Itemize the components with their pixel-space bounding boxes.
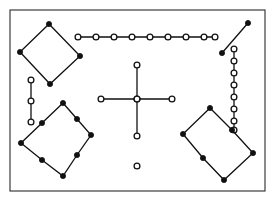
bottom-left-rotated-rectangle-node-6 xyxy=(18,140,23,145)
bottom-right-rotated-rectangle-node-3 xyxy=(221,177,226,182)
right-vertical-chain-node-1 xyxy=(231,58,237,64)
top-left-diamond-node-1 xyxy=(77,53,82,58)
bottom-left-rotated-rectangle-node-7 xyxy=(39,120,44,125)
bottom-left-rotated-rectangle-node-5 xyxy=(39,157,44,162)
bottom-left-rotated-rectangle-node-4 xyxy=(60,173,65,178)
center-cross-vertical-node-2 xyxy=(134,133,140,139)
bottom-right-rotated-rectangle-node-4 xyxy=(200,155,205,160)
top-horizontal-chain-node-7 xyxy=(201,34,207,40)
top-right-diagonal-segment-node-1 xyxy=(245,20,250,25)
left-short-vertical-chain-node-2 xyxy=(28,119,34,125)
left-short-vertical-chain-node-1 xyxy=(28,98,34,104)
bottom-left-rotated-rectangle-node-1 xyxy=(74,116,79,121)
lone-circle-below-cross-node-0 xyxy=(134,163,140,169)
bottom-left-rotated-rectangle-node-3 xyxy=(74,152,79,157)
top-horizontal-chain-node-4 xyxy=(147,34,153,40)
center-cross-vertical-node-0 xyxy=(134,62,140,68)
right-vertical-chain-node-3 xyxy=(231,82,237,88)
top-left-diamond-node-0 xyxy=(46,21,51,26)
bottom-left-rotated-rectangle-node-2 xyxy=(88,132,93,137)
bottom-right-rotated-rectangle-node-1 xyxy=(229,127,234,132)
top-horizontal-chain-node-3 xyxy=(129,34,135,40)
bottom-left-rotated-rectangle-node-0 xyxy=(60,100,65,105)
top-left-diamond-node-3 xyxy=(17,49,22,54)
bottom-right-rotated-rectangle-node-0 xyxy=(207,105,212,110)
top-right-diagonal-segment-node-0 xyxy=(219,50,224,55)
top-horizontal-chain-node-0 xyxy=(75,34,81,40)
geometric-diagram-canvas xyxy=(0,0,275,205)
right-vertical-chain-node-5 xyxy=(231,106,237,112)
right-vertical-chain-node-0 xyxy=(231,46,237,52)
center-cross-horizontal-node-1 xyxy=(134,96,140,102)
right-vertical-chain-node-2 xyxy=(231,70,237,76)
top-left-diamond-node-2 xyxy=(47,81,52,86)
top-horizontal-chain-node-2 xyxy=(111,34,117,40)
center-cross-horizontal-node-0 xyxy=(98,96,104,102)
top-horizontal-chain-node-6 xyxy=(183,34,189,40)
bottom-right-rotated-rectangle-node-5 xyxy=(180,131,185,136)
figure-container xyxy=(0,0,275,205)
lone-circle-below-cross xyxy=(134,163,140,169)
center-cross-horizontal-node-2 xyxy=(169,96,175,102)
top-horizontal-chain-node-8 xyxy=(212,34,218,40)
right-vertical-chain-node-6 xyxy=(231,118,237,124)
left-short-vertical-chain-node-0 xyxy=(28,77,34,83)
bottom-right-rotated-rectangle-node-2 xyxy=(250,150,255,155)
top-horizontal-chain-node-1 xyxy=(93,34,99,40)
top-horizontal-chain-node-5 xyxy=(165,34,171,40)
right-vertical-chain-node-4 xyxy=(231,94,237,100)
